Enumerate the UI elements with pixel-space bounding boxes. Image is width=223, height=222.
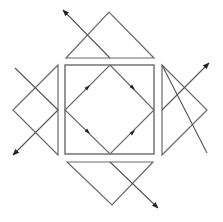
left-cross-line [15,68,58,110]
top-ray [63,10,110,58]
right-cross-line [162,65,207,153]
inner-arrow-markers [85,84,137,136]
right-ray [162,63,209,110]
inner-diamond-path [65,65,154,154]
top-prism [66,12,154,58]
left-prism [13,65,58,155]
arrow-icon [130,129,137,136]
bottom-prism [67,162,153,205]
central-square [65,65,154,154]
bottom-ray [110,162,158,208]
prism-light-path-diagram [0,0,223,222]
